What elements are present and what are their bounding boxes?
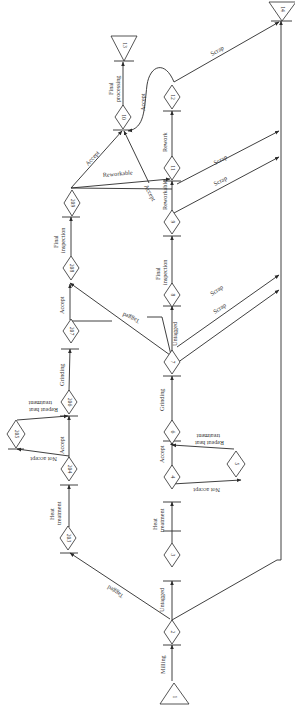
label-accept-4: Accept (158, 445, 165, 463)
edge-7-14-scrap-a (177, 290, 279, 363)
edge-2-203-tagged (70, 553, 170, 619)
edge-7-208-tagged-diag (70, 283, 170, 355)
edge-labels: Milling Untagged Heat treatment Accept N… (28, 44, 228, 674)
edge-4-5-not-accept (172, 480, 241, 484)
node-12: 12 (164, 85, 180, 109)
node-6: 6 (164, 420, 180, 444)
gate-bars-left (8, 61, 134, 553)
edge-209-10-accept (71, 131, 122, 188)
node-2: 2 (164, 620, 180, 644)
label-accept-207: Accept (58, 296, 65, 314)
node-13-end: 13 (111, 36, 137, 61)
label-not-accept-204: Not accept (30, 456, 57, 463)
svg-text:3: 3 (170, 554, 176, 557)
label-scrap-12: Scrap (209, 44, 225, 57)
node-9: 9 (164, 210, 180, 234)
label-repeat-5b: treatment (196, 433, 220, 440)
node-204: 204 (61, 457, 77, 481)
label-milling: Milling (159, 655, 166, 674)
svg-text:205: 205 (14, 430, 20, 439)
svg-text:13: 13 (122, 42, 128, 48)
edge-206-207 (69, 349, 70, 391)
label-tagged-7: Tagged (120, 311, 140, 325)
label-heat-203b: treatment (55, 501, 62, 525)
svg-text:209: 209 (70, 199, 76, 208)
label-untagged-2: Untagged (158, 587, 165, 612)
label-final-proc-b: processing (114, 76, 121, 102)
node-203: 203 (60, 526, 76, 550)
label-final-208a: Final (52, 235, 59, 248)
label-reworkable-9: Reworkable (161, 180, 168, 210)
svg-text:203: 203 (66, 534, 72, 543)
label-accept-12: Accept (139, 93, 146, 111)
edge-7-208-tagged (147, 317, 171, 355)
node-209: 209 (64, 190, 80, 216)
process-flow-diagram: 1 13 14 2 3 4 5 6 7 8 9 11 (0, 0, 295, 709)
edge-2-14-scrap (172, 21, 281, 620)
label-untagged-7: Untagged (171, 321, 178, 346)
edge-209-14-scrap (71, 188, 172, 189)
edge-9-14-scrap-b (177, 131, 279, 184)
label-rework-11: Rework (161, 132, 168, 152)
node-8: 8 (164, 283, 180, 307)
svg-text:14: 14 (280, 6, 286, 12)
svg-text:2: 2 (170, 631, 176, 634)
label-accept-9: Accept (143, 183, 158, 202)
svg-text:12: 12 (170, 94, 176, 100)
label-grinding-206: Grinding (58, 364, 65, 386)
label-repeat-5a: Repeat heat (195, 440, 224, 447)
node-5: 5 (227, 451, 245, 477)
node-14-scrap-end: 14 (269, 2, 295, 21)
svg-text:10: 10 (121, 114, 127, 120)
label-final-8a: Final (154, 267, 161, 280)
svg-text:6: 6 (170, 431, 176, 434)
gate-bars-right (163, 21, 292, 645)
edge-205-206-repeat (17, 416, 68, 420)
node-205: 205 (7, 420, 25, 448)
node-1-start: 1 (160, 683, 189, 704)
label-repeat-205a: Repeat heat (29, 407, 58, 414)
label-repeat-205b: treatment (28, 400, 52, 407)
label-heat-b: treatment (158, 508, 165, 532)
label-final-8b: inspection (161, 260, 168, 285)
svg-text:4: 4 (170, 476, 176, 479)
node-11: 11 (164, 156, 180, 180)
edge-209-11-reworkable (71, 179, 170, 188)
label-final-208b: inspection (59, 228, 66, 253)
node-207: 207 (63, 319, 79, 343)
node-10: 10 (115, 105, 131, 129)
svg-text:207: 207 (69, 327, 75, 336)
svg-text:7: 7 (170, 361, 176, 364)
svg-text:204: 204 (67, 465, 73, 474)
label-scrap-9b: Scrap (212, 174, 228, 187)
svg-text:206: 206 (67, 398, 73, 407)
label-final-proc-a: Final (107, 82, 114, 95)
label-scrap-7a: Scrap (209, 283, 225, 297)
label-heat-a: Heat (151, 518, 158, 530)
edge-7-14-scrap-b (177, 275, 279, 347)
edge-12-14-scrap (174, 22, 279, 82)
label-tagged-2: Tagged (105, 584, 125, 600)
svg-text:11: 11 (170, 165, 176, 171)
node-208: 208 (63, 256, 79, 280)
svg-text:9: 9 (170, 221, 176, 224)
label-reworkable-209: Reworkable (102, 168, 133, 178)
svg-text:208: 208 (69, 264, 75, 273)
label-scrap-9a: Scrap (212, 153, 228, 166)
node-206: 206 (61, 390, 77, 414)
node-7: 7 (164, 350, 180, 374)
node-4: 4 (164, 465, 180, 489)
svg-text:1: 1 (172, 696, 178, 699)
label-not-accept-4: Not accept (193, 487, 220, 494)
svg-text:5: 5 (234, 463, 240, 466)
label-heat-203a: Heat (48, 508, 55, 520)
label-grinding-6: Grinding (158, 389, 165, 411)
label-accept-204: Accept (58, 436, 65, 454)
svg-text:8: 8 (170, 294, 176, 297)
node-3: 3 (164, 543, 180, 567)
edge-9-14-scrap-a (174, 157, 279, 213)
